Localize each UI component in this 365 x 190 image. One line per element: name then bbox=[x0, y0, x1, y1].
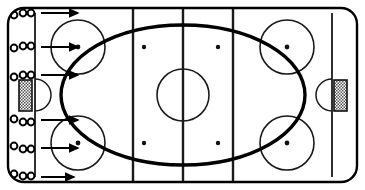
player-marker bbox=[11, 74, 18, 81]
neutral-dot-bottom-right bbox=[216, 141, 220, 145]
rink-canvas bbox=[0, 0, 365, 190]
player-marker bbox=[11, 45, 18, 52]
player-marker bbox=[28, 72, 35, 79]
player-marker bbox=[20, 173, 27, 180]
player-marker bbox=[28, 119, 35, 126]
faceoff-dot-top-right bbox=[285, 45, 290, 50]
player-marker bbox=[28, 43, 35, 50]
player-marker bbox=[20, 72, 27, 79]
faceoff-dot-bottom-left bbox=[76, 141, 81, 146]
goal-net-right bbox=[334, 80, 347, 111]
player-marker bbox=[11, 143, 18, 150]
player-marker bbox=[28, 146, 35, 153]
goal-net-left bbox=[19, 80, 32, 111]
player-marker bbox=[20, 10, 27, 17]
neutral-dot-top-left bbox=[142, 45, 146, 49]
neutral-dot-top-right bbox=[216, 45, 220, 49]
neutral-dot-bottom-left bbox=[142, 141, 146, 145]
player-marker bbox=[28, 10, 35, 17]
player-marker bbox=[20, 146, 27, 153]
faceoff-dot-bottom-right bbox=[285, 141, 290, 146]
player-marker bbox=[11, 116, 18, 123]
hockey-rink-diagram bbox=[0, 0, 365, 190]
player-marker bbox=[28, 173, 35, 180]
player-marker bbox=[20, 119, 27, 126]
player-marker bbox=[20, 43, 27, 50]
